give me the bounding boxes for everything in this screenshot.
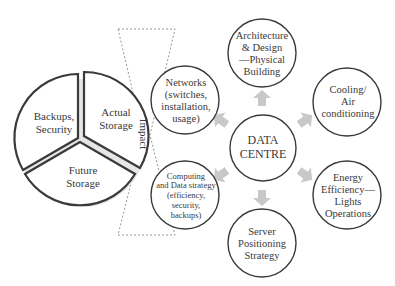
node-label-cooling: Cooling/ Air conditioning <box>310 80 386 124</box>
node-label-computing: Computing and Data strategy (efficiency,… <box>147 166 225 226</box>
node-label-energy: Energy Efficiency— Lights Operations <box>310 167 386 225</box>
pie-label-backups: Backups, Security <box>26 110 82 135</box>
center-label: DATA CENTRE <box>230 128 296 168</box>
node-label-networks: Networks (switches, installation, usage) <box>148 72 224 130</box>
diagram-canvas <box>0 0 395 286</box>
node-label-architecture: Architecture & Design —Physical Building <box>224 25 300 83</box>
pie-label-actual: Actual Storage <box>92 106 140 131</box>
pie-label-future: Future Storage <box>56 164 110 189</box>
node-label-server: Server Positioning Strategy <box>224 222 300 266</box>
